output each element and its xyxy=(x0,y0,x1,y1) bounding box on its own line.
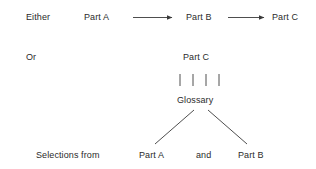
sequence-part-c-label: Part C xyxy=(272,12,298,23)
glossary-label: Glossary xyxy=(177,95,213,106)
branch-line-left-icon xyxy=(155,110,194,144)
glossary-branch-part-c-label: Part C xyxy=(183,52,209,63)
diagram-canvas: Either Part A Part B Part C Or Part C Gl… xyxy=(0,0,316,169)
selection-conjunction-label: and xyxy=(196,150,211,161)
row-label-either: Either xyxy=(26,12,50,23)
sequence-part-b-label: Part B xyxy=(186,12,212,23)
branch-line-right-icon xyxy=(208,110,247,144)
vertical-tick-group-icon xyxy=(180,74,219,86)
selection-part-b-label: Part B xyxy=(238,150,264,161)
selection-part-a-label: Part A xyxy=(139,150,164,161)
sequence-part-a-label: Part A xyxy=(84,12,109,23)
diagram-vector-layer xyxy=(0,0,316,169)
row-label-or: Or xyxy=(26,52,36,63)
row-label-selections-from: Selections from xyxy=(36,150,100,161)
